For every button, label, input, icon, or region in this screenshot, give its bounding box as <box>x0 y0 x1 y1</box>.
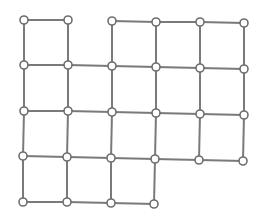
node-r5c2 <box>63 198 71 206</box>
edge-r3c4-r3c5 <box>156 113 200 114</box>
node-r4c1 <box>19 152 27 160</box>
edge-r3c3-r4c3 <box>111 112 112 158</box>
node-r1c4 <box>152 18 160 26</box>
edge-r3c4-r4c4 <box>155 113 156 159</box>
node-r4c4 <box>151 155 159 163</box>
edge-r3c6-r4c6 <box>243 115 244 161</box>
edge-r2c2-r2c3 <box>68 65 112 66</box>
edge-r2c3-r2c4 <box>112 66 156 67</box>
node-r3c6 <box>240 111 248 119</box>
node-r4c5 <box>195 156 203 164</box>
edge-r3c1-r4c1 <box>23 111 24 156</box>
node-r3c2 <box>64 107 72 115</box>
node-r4c3 <box>107 154 115 162</box>
edge-r3c2-r4c2 <box>67 111 68 157</box>
node-r2c2 <box>64 61 72 69</box>
edge-r4c2-r4c3 <box>67 157 111 158</box>
node-r2c6 <box>240 65 248 73</box>
edge-r3c5-r4c5 <box>199 114 200 160</box>
node-r4c6 <box>239 157 247 165</box>
edge-r1c3-r1c4 <box>112 21 156 22</box>
edge-r2c5-r2c6 <box>200 68 244 69</box>
edge-r1c5-r1c6 <box>200 22 244 23</box>
edge-r4c5-r4c6 <box>199 160 243 161</box>
edge-r4c1-r4c2 <box>23 156 67 157</box>
node-r1c6 <box>240 19 248 27</box>
node-r1c1 <box>20 16 28 24</box>
node-r1c3 <box>108 17 116 25</box>
node-r2c3 <box>108 62 116 70</box>
node-r2c4 <box>152 63 160 71</box>
edge-r5c3-r5c4 <box>111 203 154 204</box>
edge-r4c4-r5c4 <box>154 159 155 204</box>
node-r5c1 <box>19 198 27 206</box>
node-r2c5 <box>196 64 204 72</box>
node-r3c3 <box>108 108 116 116</box>
node-r5c3 <box>107 199 115 207</box>
node-r1c5 <box>196 18 204 26</box>
edge-layer <box>23 20 244 204</box>
edge-r4c4-r4c5 <box>155 159 199 160</box>
grid-graph-diagram <box>0 0 263 214</box>
edge-r3c5-r3c6 <box>200 114 244 115</box>
edge-r5c2-r5c3 <box>67 202 111 203</box>
node-r1c2 <box>64 16 72 24</box>
edge-r2c4-r2c5 <box>156 67 200 68</box>
edge-r3c2-r3c3 <box>68 111 112 112</box>
edge-r4c3-r4c4 <box>111 158 155 159</box>
grid-graph-canvas <box>0 0 263 214</box>
edge-r3c3-r3c4 <box>112 112 156 113</box>
node-r3c1 <box>20 107 28 115</box>
node-r2c1 <box>20 61 28 69</box>
node-r3c4 <box>152 109 160 117</box>
node-r4c2 <box>63 153 71 161</box>
node-r3c5 <box>196 110 204 118</box>
node-r5c4 <box>150 200 158 208</box>
